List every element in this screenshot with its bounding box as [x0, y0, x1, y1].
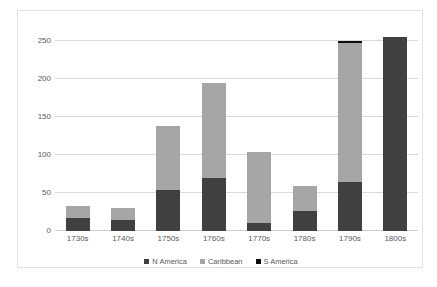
x-axis: 1730s1740s1750s1760s1770s1780s1790s1800s [55, 234, 418, 248]
legend-swatch-icon [200, 259, 205, 264]
y-axis: 050100150200250 [18, 32, 51, 231]
gridline-100 [55, 154, 418, 155]
x-tick-label: 1780s [282, 234, 328, 244]
y-tick-label: 100 [21, 151, 51, 159]
bar-segment-n-america[interactable] [156, 190, 180, 231]
y-tick-label: 50 [21, 189, 51, 197]
bar-1760s[interactable] [202, 83, 226, 231]
bar-segment-n-america[interactable] [111, 220, 135, 231]
gridline-200 [55, 78, 418, 79]
y-tick-label: 200 [21, 75, 51, 83]
gridline-50 [55, 192, 418, 193]
legend-item-n-america[interactable]: N America [144, 258, 187, 266]
chart-legend: N AmericaCaribbeanS America [18, 258, 424, 266]
x-tick-label: 1800s [372, 234, 418, 244]
legend-swatch-icon [144, 259, 149, 264]
bar-segment-n-america[interactable] [247, 223, 271, 231]
bar-segment-caribbean[interactable] [111, 208, 135, 219]
x-tick-label: 1740s [100, 234, 146, 244]
gridline-0 [55, 230, 418, 231]
legend-label: Caribbean [208, 258, 243, 266]
x-tick-label: 1750s [145, 234, 191, 244]
x-tick-label: 1790s [327, 234, 373, 244]
bar-segment-n-america[interactable] [202, 178, 226, 231]
x-tick-label: 1760s [191, 234, 237, 244]
bar-1770s[interactable] [247, 152, 271, 231]
x-tick-label: 1730s [55, 234, 101, 244]
bar-1790s[interactable] [338, 41, 362, 231]
bar-segment-caribbean[interactable] [66, 206, 90, 218]
bar-segment-n-america[interactable] [66, 218, 90, 231]
bar-segment-n-america[interactable] [293, 211, 317, 232]
legend-item-s-america[interactable]: S America [256, 258, 298, 266]
bar-segment-caribbean[interactable] [202, 83, 226, 178]
legend-label: S America [264, 258, 298, 266]
x-tick-label: 1770s [236, 234, 282, 244]
bar-segment-caribbean[interactable] [247, 152, 271, 223]
legend-item-caribbean[interactable]: Caribbean [200, 258, 243, 266]
bar-1800s[interactable] [383, 37, 407, 231]
bar-1730s[interactable] [66, 206, 90, 231]
bar-segment-caribbean[interactable] [156, 126, 180, 190]
y-tick-label: 0 [21, 227, 51, 235]
legend-label: N America [152, 258, 187, 266]
plot-area [55, 32, 418, 231]
bar-segment-caribbean[interactable] [293, 186, 317, 210]
bar-1750s[interactable] [156, 126, 180, 231]
chart-container: 050100150200250 1730s1740s1750s1760s1770… [17, 10, 423, 268]
bar-1780s[interactable] [293, 186, 317, 231]
legend-swatch-icon [256, 259, 261, 264]
bar-segment-n-america[interactable] [383, 37, 407, 231]
bar-1740s[interactable] [111, 208, 135, 231]
gridline-250 [55, 40, 418, 41]
y-tick-label: 150 [21, 113, 51, 121]
gridline-150 [55, 116, 418, 117]
bar-segment-caribbean[interactable] [338, 43, 362, 181]
y-tick-label: 250 [21, 37, 51, 45]
bar-segment-n-america[interactable] [338, 182, 362, 231]
